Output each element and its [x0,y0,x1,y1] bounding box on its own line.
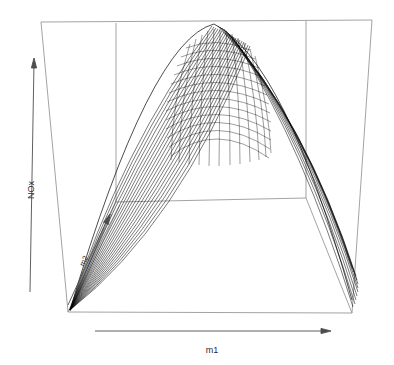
axis-label-nox: NOx [26,181,36,200]
box-edge-left-vertical [41,22,68,312]
persp-surface-plot: NOx m1 m2 [0,0,394,365]
plot-canvas: NOx m1 m2 [0,0,394,365]
surface-mesh-rows [166,42,271,158]
surface-crest [70,24,352,310]
axis-label-m1: m1 [206,345,219,355]
box-edge-top-back [41,20,372,22]
box-edge-floor-back [116,198,306,202]
box-edge-floor-front [68,312,352,313]
surface-right-flank [218,26,358,307]
axis-arrow-nox [30,58,37,292]
surface-left-flank [70,26,250,310]
box-edge-right-vertical [352,20,372,313]
axis-arrow-m1 [95,328,331,333]
surface-mesh [70,24,358,311]
